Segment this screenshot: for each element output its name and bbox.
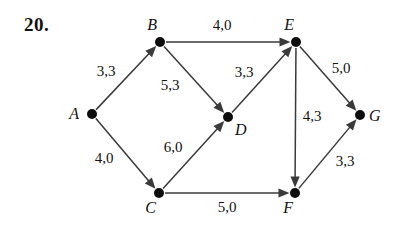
node-label-a: A (68, 105, 79, 122)
edge-c-to-d (163, 128, 218, 189)
node-label-f: F (282, 199, 293, 216)
edge-label-c-d: 6,0 (164, 139, 183, 155)
node-label-d: D (234, 121, 247, 138)
node-label-c: C (145, 199, 156, 216)
edge-d-to-e (232, 53, 286, 113)
edge-e-to-f (295, 48, 296, 179)
edge-label-d-e: 3,3 (235, 64, 254, 80)
edge-label-a-c: 4,0 (95, 150, 114, 166)
node-d (223, 112, 233, 122)
edge-label-b-e: 4,0 (213, 17, 232, 33)
node-e (291, 37, 301, 47)
node-b (155, 37, 165, 47)
node-g (355, 110, 365, 120)
node-c (154, 188, 164, 198)
node-label-g: G (369, 107, 381, 124)
arrowhead-c-to-f (279, 188, 290, 197)
node-label-e: E (283, 16, 294, 33)
edge-label-f-g: 3,3 (336, 153, 355, 169)
arrowhead-b-to-e (280, 37, 291, 46)
arrowhead-e-to-f (291, 176, 300, 187)
node-f (290, 188, 300, 198)
node-label-b: B (147, 16, 157, 33)
flow-network-figure: 20. 3,34,04,05,36,05,03,35,04,33,3 ABCDE… (0, 0, 400, 235)
edge-label-a-b: 3,3 (97, 63, 116, 79)
edge-label-b-d: 5,3 (161, 77, 180, 93)
edge-label-c-f: 5,0 (218, 199, 237, 215)
flow-network-graph: 3,34,04,05,36,05,03,35,04,33,3 ABCDEFG (0, 0, 400, 235)
node-a (87, 109, 97, 119)
edge-a-to-b (96, 53, 150, 110)
edge-label-e-f: 4,3 (303, 108, 322, 124)
nodes-layer (87, 37, 365, 198)
edge-label-e-g: 5,0 (332, 60, 351, 76)
